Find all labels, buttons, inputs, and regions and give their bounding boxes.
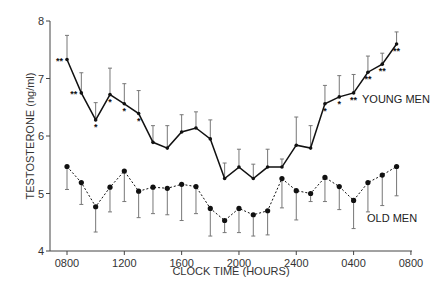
y-tick-label: 5 <box>38 188 44 200</box>
old-men-point <box>322 175 327 180</box>
old-men-point <box>380 173 385 178</box>
young-men-point <box>166 146 170 150</box>
old-men-point <box>93 204 98 209</box>
old-men-point <box>136 189 141 194</box>
old-men-point <box>150 185 155 190</box>
y-tick-label: 4 <box>38 245 44 257</box>
significance-marker: * <box>108 97 112 107</box>
old-men-point <box>251 212 256 217</box>
y-tick-label: 8 <box>38 15 44 27</box>
old-men-point <box>165 186 170 191</box>
significance-marker: ** <box>364 74 372 84</box>
significance-marker: * <box>123 106 127 116</box>
old-men-point <box>394 164 399 169</box>
old-men-label: OLD MEN <box>367 212 417 224</box>
young-men-point <box>80 91 84 95</box>
young-men-point <box>309 146 313 150</box>
young-men-point <box>266 165 270 169</box>
y-axis-title: TESTOSTERONE (ng/ml) <box>24 73 36 200</box>
old-men-point <box>236 206 241 211</box>
x-tick-label: 1200 <box>112 257 136 269</box>
x-axis-title: CLOCK TIME (HOURS) <box>172 265 289 277</box>
old-men-point <box>265 208 270 213</box>
old-men-point <box>365 180 370 185</box>
young-men-point <box>237 165 241 169</box>
significance-marker: * <box>323 106 327 116</box>
old-men-point <box>179 182 184 187</box>
old-men-point <box>351 198 356 203</box>
testosterone-chart: 456780800120016002000240004000800CLOCK T… <box>0 0 444 295</box>
young-men-point <box>151 141 155 145</box>
x-tick-label: 0800 <box>399 257 423 269</box>
young-men-point <box>180 130 184 134</box>
old-men-point <box>222 218 227 223</box>
old-men-point <box>279 176 284 181</box>
significance-marker: ** <box>350 95 358 105</box>
young-men-point <box>209 137 213 141</box>
old-men-point <box>193 184 198 189</box>
old-men-point <box>64 164 69 169</box>
x-tick-label: 0400 <box>341 257 365 269</box>
significance-marker: ** <box>56 56 64 66</box>
young-men-point <box>251 177 255 181</box>
significance-marker: ** <box>379 66 387 76</box>
old-men-point <box>107 185 112 190</box>
young-men-line <box>67 44 397 179</box>
young-men-point <box>65 58 69 62</box>
young-men-point <box>223 177 227 181</box>
y-tick-label: 6 <box>38 130 44 142</box>
old-men-point <box>208 206 213 211</box>
old-men-point <box>337 184 342 189</box>
significance-marker: ** <box>70 89 78 99</box>
old-men-error-bars <box>65 166 399 236</box>
young-men-label: YOUNG MEN <box>362 93 430 105</box>
axes: 456780800120016002000240004000800CLOCK T… <box>24 15 423 277</box>
young-men-point <box>194 126 198 130</box>
series-lines <box>64 42 399 223</box>
young-men-point <box>280 165 284 169</box>
significance-marker: ** <box>393 46 401 56</box>
x-tick-label: 0800 <box>55 257 79 269</box>
young-men-error-bars <box>65 32 399 179</box>
labels: ******************YOUNG MENOLD MEN <box>56 46 430 224</box>
y-tick-label: 7 <box>38 73 44 85</box>
old-men-point <box>294 188 299 193</box>
old-men-line <box>67 167 397 221</box>
old-men-point <box>79 180 84 185</box>
old-men-point <box>122 168 127 173</box>
significance-marker: * <box>94 122 98 132</box>
old-men-point <box>308 191 313 196</box>
significance-marker: * <box>338 99 342 109</box>
young-men-point <box>294 143 298 147</box>
significance-marker: * <box>137 116 141 126</box>
